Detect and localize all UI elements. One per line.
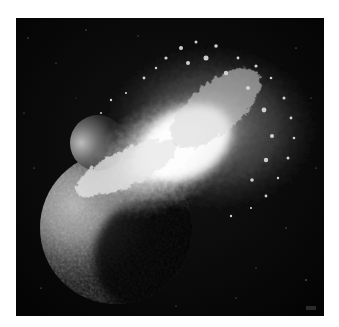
page (0, 0, 339, 327)
artwork-frame (16, 18, 324, 316)
watermark-mark (306, 306, 316, 310)
planetary-collision-image (16, 18, 324, 316)
cropped-caption (16, 322, 324, 327)
